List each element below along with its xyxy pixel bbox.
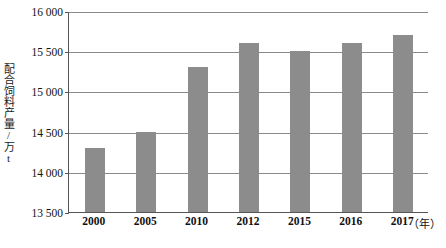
bar <box>393 35 413 212</box>
bar <box>239 43 259 212</box>
x-axis-tick-label: 2017 <box>391 215 414 227</box>
bar <box>342 43 362 212</box>
plot-area <box>68 12 428 213</box>
bar-chart-figure: 配合饲料产量/万t 13 50014 00014 50015 00015 500… <box>0 0 446 248</box>
y-axis-tick-label: 15 000 <box>31 86 63 98</box>
y-axis-tick <box>65 52 69 53</box>
y-axis-tick-label: 14 000 <box>31 167 63 179</box>
gridline <box>69 12 428 13</box>
y-axis-tick-label: 15 500 <box>31 46 63 58</box>
y-axis-tick-label-group: 13 50014 00014 50015 00015 50016 000 <box>16 0 66 248</box>
y-axis-tick-label: 14 500 <box>31 127 63 139</box>
x-axis-tick-label: 2016 <box>339 215 362 227</box>
y-axis-title: 配合饲料产量/万t <box>0 38 16 188</box>
y-axis-tick <box>65 213 69 214</box>
bar <box>136 132 156 212</box>
x-axis-tick-label-group: （年） 2000200520102012201520162017 <box>68 215 446 235</box>
x-axis-tick-label: 2005 <box>134 215 157 227</box>
x-axis-tick-label: 2015 <box>288 215 311 227</box>
bar <box>188 67 208 212</box>
y-axis-tick <box>65 92 69 93</box>
x-axis-tick-label: 2010 <box>185 215 208 227</box>
y-axis-tick-label: 13 500 <box>31 207 63 219</box>
y-axis-tick-label: 16 000 <box>31 6 63 18</box>
bar <box>290 51 310 212</box>
x-axis-tick-label: 2000 <box>82 215 105 227</box>
y-axis-tick <box>65 133 69 134</box>
y-axis-tick <box>65 173 69 174</box>
bar <box>85 148 105 212</box>
x-axis-tick-label: 2012 <box>237 215 260 227</box>
y-axis-tick <box>65 12 69 13</box>
